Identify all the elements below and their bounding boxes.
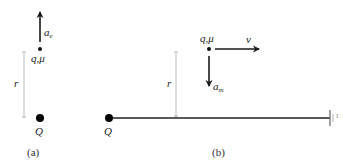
distance-label-b: r [167,78,171,89]
source-charge-dot [105,114,113,122]
source-charge-dot [36,114,44,122]
diagram-canvas [0,0,352,165]
caption-a: (a) [27,147,39,158]
acceleration-label-b: am [213,81,224,92]
velocity-label-b: v [246,34,251,45]
distance-label-a: r [14,78,18,89]
source-label-a: Q [35,126,43,137]
source-label-b: Q [104,126,112,137]
panel-a [22,12,44,122]
acceleration-label-a: ae [44,27,53,38]
charge-label-b: q,μ [200,33,214,44]
test-charge-dot [38,47,42,51]
charge-label-a: q,μ [31,53,45,64]
terminal-label-b: I [336,113,338,120]
caption-b: (b) [212,147,225,158]
test-charge-dot [207,47,211,51]
